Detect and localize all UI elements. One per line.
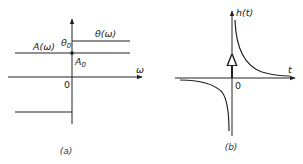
panel-a-origin-label: 0: [64, 79, 70, 90]
panel-b-caption: (b): [225, 142, 238, 152]
t-axis-label: t: [288, 64, 293, 75]
amplitude-label: A(ω): [32, 41, 55, 52]
diagram-canvas: A(ω) θ(ω) θ0 A0 ω 0 (a) h(t) t 0 (b): [0, 0, 303, 164]
a0-point: [70, 51, 74, 55]
panel-a-caption: (a): [60, 146, 73, 156]
a0-label: A0: [74, 56, 87, 69]
hyperbola-positive-branch: [235, 20, 290, 76]
panel-a: A(ω) θ(ω) θ0 A0 ω 0 (a): [8, 19, 144, 156]
phase-label: θ(ω): [95, 28, 116, 39]
panel-b-origin-label: 0: [235, 80, 241, 91]
omega-axis-label: ω: [136, 64, 144, 75]
panel-b: h(t) t 0 (b): [175, 7, 295, 152]
hyperbola-negative-branch: [180, 80, 229, 131]
theta0-label: θ0: [61, 37, 72, 50]
h-of-t-label: h(t): [236, 7, 253, 18]
